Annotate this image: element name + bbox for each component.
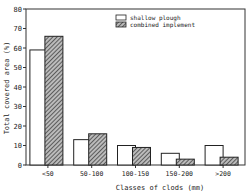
- legend-label: combined implement: [130, 21, 195, 29]
- y-tick-label: 30: [14, 103, 22, 111]
- y-tick-label: 60: [14, 45, 22, 53]
- y-tick-label: 50: [14, 64, 22, 72]
- bar-combined-implement: [133, 147, 151, 165]
- x-tick-label: 150-200: [166, 170, 193, 178]
- y-tick-label: 40: [14, 84, 22, 92]
- bar-combined-implement: [220, 157, 238, 165]
- x-tick-label: >200: [215, 170, 231, 178]
- x-tick-label: <50: [42, 170, 54, 178]
- legend-swatch: [116, 15, 126, 20]
- bar-combined-implement: [45, 36, 63, 165]
- bar-combined-implement: [89, 134, 107, 165]
- y-tick-label: 20: [14, 123, 22, 131]
- x-axis: <5050-100100-150150-200>200: [42, 165, 231, 178]
- legend-swatch: [116, 22, 126, 27]
- y-tick-label: 70: [14, 25, 22, 33]
- y-tick-label: 0: [18, 162, 22, 170]
- y-tick-label: 10: [14, 142, 22, 150]
- x-tick-label: 50-100: [80, 170, 104, 178]
- y-axis: 01020304050607080: [14, 6, 26, 170]
- legend: shallow ploughcombined implement: [116, 14, 195, 29]
- bar-chart: 01020304050607080 <5050-100100-150150-20…: [0, 0, 250, 193]
- x-tick-label: 100-150: [122, 170, 149, 178]
- bar-combined-implement: [176, 159, 194, 165]
- x-axis-label: Classes of clods (mm): [116, 184, 205, 192]
- y-tick-label: 80: [14, 6, 22, 14]
- y-axis-label: Total covered area (%): [3, 42, 11, 135]
- bars: [30, 36, 238, 165]
